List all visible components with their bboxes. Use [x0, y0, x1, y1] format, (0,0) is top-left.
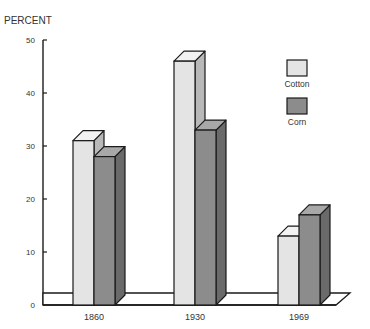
- y-tick-label: 30: [26, 142, 35, 151]
- legend-swatch: [287, 98, 307, 114]
- chart-container: PERCENT01020304050 186019301969 CottonCo…: [0, 0, 370, 329]
- bars: [73, 51, 330, 305]
- legend-item-cotton: Cotton: [284, 60, 309, 89]
- y-axis: PERCENT01020304050: [4, 15, 52, 310]
- x-axis-labels: 186019301969: [84, 312, 309, 322]
- legend: CottonCorn: [284, 60, 309, 127]
- x-tick-label: 1930: [185, 312, 205, 322]
- x-tick-label: 1969: [289, 312, 309, 322]
- y-tick-label: 10: [26, 248, 35, 257]
- x-tick-label: 1860: [84, 312, 104, 322]
- y-axis-title: PERCENT: [4, 15, 52, 26]
- y-tick-label: 40: [26, 89, 35, 98]
- legend-label: Corn: [288, 117, 307, 127]
- y-tick-label: 50: [26, 36, 35, 45]
- bar-corn-1860: [94, 147, 125, 305]
- y-tick-label: 0: [31, 301, 36, 310]
- legend-item-corn: Corn: [287, 98, 307, 127]
- y-tick-label: 20: [26, 195, 35, 204]
- legend-swatch: [287, 60, 307, 76]
- bar-corn-1969: [299, 205, 330, 305]
- bar-chart-3d: PERCENT01020304050 186019301969 CottonCo…: [0, 0, 370, 329]
- bar-corn-1930: [195, 120, 226, 305]
- legend-label: Cotton: [284, 79, 309, 89]
